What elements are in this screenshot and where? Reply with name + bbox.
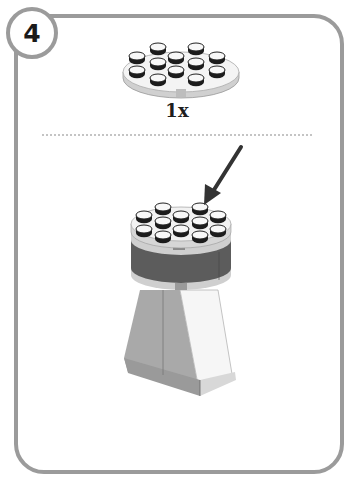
callout-divider <box>42 134 312 136</box>
placed-round-plate <box>131 203 231 248</box>
tapered-base <box>124 290 236 396</box>
part-quantity-label: 1x <box>0 100 354 121</box>
instruction-illustration <box>0 0 354 484</box>
part-round-plate-icon <box>123 43 239 98</box>
placement-arrow-icon <box>204 147 241 205</box>
step-number-badge: 4 <box>6 7 58 59</box>
